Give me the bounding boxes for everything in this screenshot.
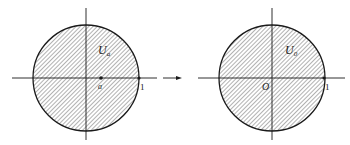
left-unit-label: 1 [140, 82, 145, 92]
right-diagram: U0 O 1 [198, 8, 345, 140]
diagram-canvas: Ua a 1 U0 O 1 [0, 0, 350, 145]
left-point-a-label: a [98, 82, 102, 91]
right-unit-label: 1 [325, 82, 330, 92]
right-point-one [322, 76, 325, 79]
left-diagram: Ua a 1 [12, 8, 157, 140]
left-point-a [99, 76, 103, 80]
mapping-arrow-icon [163, 76, 182, 80]
left-point-one [137, 76, 140, 79]
right-origin-label: O [262, 81, 269, 92]
